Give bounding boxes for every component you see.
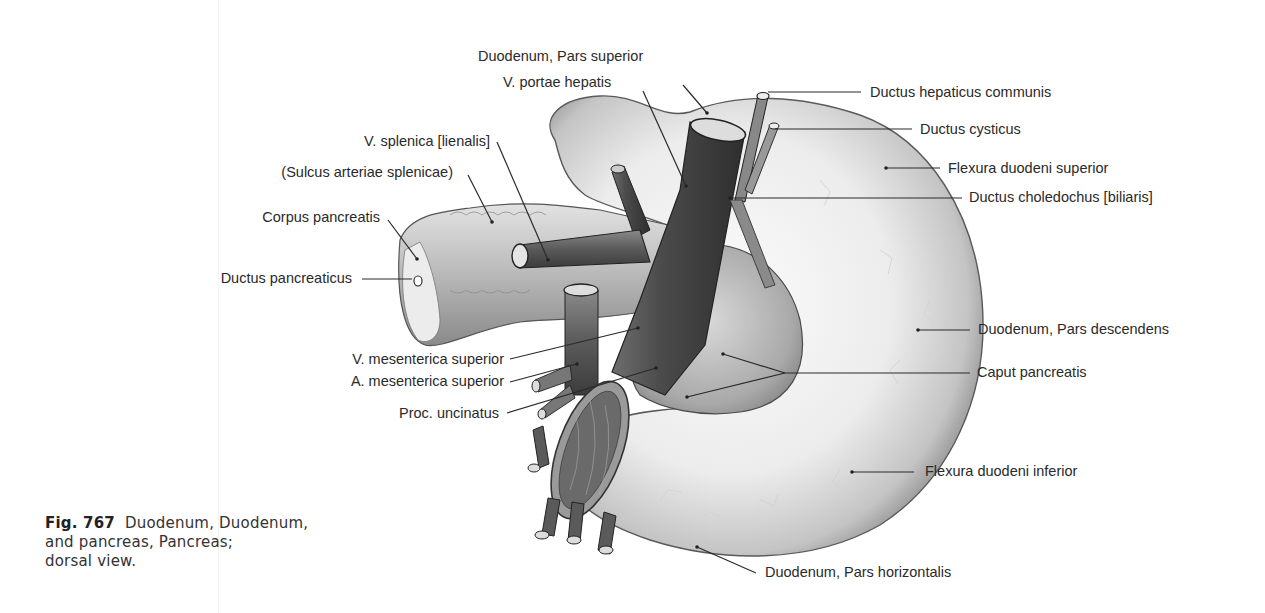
label-caput-pancreatis: Caput pancreatis (977, 364, 1087, 381)
label-sulcus-arteriae-splenicae: (Sulcus arteriae splenicae) (230, 164, 453, 181)
label-a-mesenterica-superior: A. mesenterica superior (300, 373, 504, 390)
caption-line-3: dorsal view. (45, 552, 345, 571)
label-duodenum-pars-horizontalis: Duodenum, Pars horizontalis (765, 564, 951, 581)
ductus-pancreaticus-opening (414, 276, 422, 286)
label-ductus-choledochus: Ductus choledochus [biliaris] (969, 189, 1153, 206)
label-v-mesenterica-superior: V. mesenterica superior (300, 351, 504, 368)
caption-line-1: Fig. 767Duodenum, Duodenum, (45, 514, 345, 533)
label-ductus-pancreaticus: Ductus pancreaticus (180, 270, 352, 287)
figure-caption: Fig. 767Duodenum, Duodenum, and pancreas… (45, 514, 345, 571)
caption-text-1: Duodenum, Duodenum, (125, 514, 308, 532)
label-duodenum-pars-descendens: Duodenum, Pars descendens (978, 321, 1169, 338)
label-proc-uncinatus: Proc. uncinatus (330, 405, 499, 422)
label-corpus-pancreatis: Corpus pancreatis (220, 209, 380, 226)
label-flexura-duodeni-inferior: Flexura duodeni inferior (925, 463, 1077, 480)
figure-number: Fig. 767 (45, 514, 115, 532)
label-ductus-hepaticus-communis: Ductus hepaticus communis (870, 84, 1051, 101)
label-duodenum-pars-superior: Duodenum, Pars superior (478, 48, 643, 65)
label-v-portae-hepatis: V. portae hepatis (503, 74, 611, 91)
caption-line-2: and pancreas, Pancreas; (45, 533, 345, 552)
label-v-splenica: V. splenica [lienalis] (300, 133, 490, 150)
label-ductus-cysticus: Ductus cysticus (920, 121, 1021, 138)
label-flexura-duodeni-superior: Flexura duodeni superior (948, 160, 1108, 177)
